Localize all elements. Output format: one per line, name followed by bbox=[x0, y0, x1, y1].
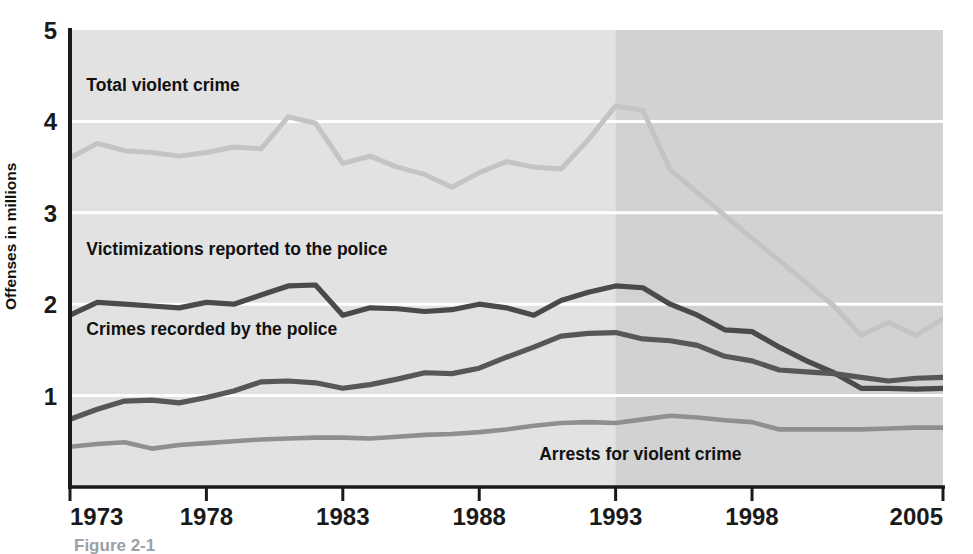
y-axis-title: Offenses in millions bbox=[2, 163, 19, 310]
y-axis-tick-labels: 12345 bbox=[44, 17, 58, 410]
y-tick-label-1: 1 bbox=[44, 383, 57, 410]
figure-caption: Figure 2-1 bbox=[74, 536, 155, 554]
arrests-label: Arrests for violent crime bbox=[539, 444, 742, 464]
x-tick-label-1983: 1983 bbox=[316, 503, 369, 530]
x-tick-label-1978: 1978 bbox=[180, 503, 233, 530]
y-tick-label-5: 5 bbox=[44, 17, 57, 44]
x-tick-label-1973: 1973 bbox=[70, 503, 123, 530]
x-tick-label-1988: 1988 bbox=[453, 503, 506, 530]
crimes-recorded-label: Crimes recorded by the police bbox=[86, 319, 337, 339]
figure-container: 12345 1973197819831988199319982005 Offen… bbox=[0, 0, 973, 554]
line-chart: 12345 1973197819831988199319982005 Offen… bbox=[0, 0, 973, 554]
victimizations-label: Victimizations reported to the police bbox=[86, 239, 387, 259]
x-tick-label-1998: 1998 bbox=[725, 503, 778, 530]
y-tick-label-2: 2 bbox=[44, 291, 57, 318]
x-tick-label-2005: 2005 bbox=[890, 503, 943, 530]
x-axis-tick-labels: 1973197819831988199319982005 bbox=[70, 503, 943, 530]
total-violent-crime-label: Total violent crime bbox=[86, 75, 240, 95]
x-tick-label-1993: 1993 bbox=[589, 503, 642, 530]
y-tick-label-4: 4 bbox=[44, 108, 58, 135]
y-tick-label-3: 3 bbox=[44, 200, 57, 227]
x-axis-ticks bbox=[70, 488, 943, 501]
